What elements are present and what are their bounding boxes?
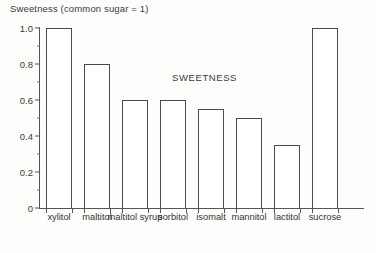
bar-sorbitol[interactable]	[160, 100, 186, 208]
y-tick-label: 0.4	[20, 131, 40, 142]
bar-xylitol[interactable]	[46, 28, 72, 208]
x-axis-line	[39, 208, 364, 209]
y-tick-label: 0.8	[20, 59, 40, 70]
x-axis-label-sucrose: sucrose	[296, 212, 354, 223]
bar-maltitol-syrup[interactable]	[122, 100, 148, 208]
plot-area: 00.20.40.60.81.0	[40, 28, 362, 208]
bar-sucrose[interactable]	[312, 28, 338, 208]
bar-mannitol[interactable]	[236, 118, 262, 208]
chart-title: Sweetness (common sugar = 1)	[10, 3, 149, 14]
bar-series	[40, 28, 362, 208]
sweetness-bar-chart: Sweetness (common sugar = 1) SWEETNESS 0…	[0, 0, 376, 253]
bar-lactitol[interactable]	[274, 145, 300, 208]
y-tick-label: 0.6	[20, 95, 40, 106]
bar-maltitol[interactable]	[84, 64, 110, 208]
y-tick-label: 0.2	[20, 167, 40, 178]
y-tick-label: 1.0	[20, 23, 40, 34]
bar-isomalt[interactable]	[198, 109, 224, 208]
